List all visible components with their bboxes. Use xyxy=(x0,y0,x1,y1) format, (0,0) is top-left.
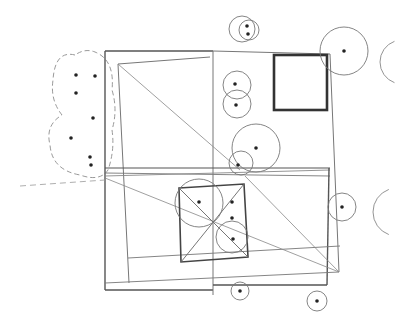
tree-dot xyxy=(340,205,344,209)
partial-arc xyxy=(373,189,389,234)
partial-tree-arcs xyxy=(373,41,394,234)
tree-dot xyxy=(197,200,201,204)
tree-dot xyxy=(233,82,237,86)
tree-dot xyxy=(93,74,97,78)
plan-line xyxy=(330,54,339,272)
tree-dot xyxy=(246,32,250,36)
tree-dot xyxy=(234,103,238,107)
plan-line xyxy=(128,246,340,258)
tree-dot xyxy=(69,136,73,140)
tree-dot xyxy=(91,116,95,120)
tree-dot xyxy=(342,49,346,53)
bold-rect xyxy=(274,55,327,110)
tree-dot xyxy=(315,299,319,303)
tree-dot xyxy=(89,163,93,167)
plan-line xyxy=(118,64,240,170)
tree-trunk-dots xyxy=(69,24,346,303)
partial-arc xyxy=(380,41,394,82)
tree-circle xyxy=(223,71,251,99)
plan-line xyxy=(20,180,105,186)
tree-dot xyxy=(238,289,242,293)
plan-line xyxy=(118,57,210,64)
tree-dot xyxy=(245,24,249,28)
tree-dot xyxy=(74,73,78,77)
site-plan-canvas xyxy=(0,0,409,332)
site-plan-drawing xyxy=(0,0,409,332)
tree-dot xyxy=(88,155,92,159)
plan-lines xyxy=(20,51,340,295)
tree-dot xyxy=(74,91,78,95)
tree-circle xyxy=(229,151,253,175)
plan-line xyxy=(213,51,330,54)
tree-dot xyxy=(231,237,235,241)
tree-circle xyxy=(216,221,248,253)
tree-circle xyxy=(239,20,259,40)
plan-line xyxy=(105,272,339,283)
tree-dot xyxy=(230,216,234,220)
bold-building-rect xyxy=(274,55,327,110)
tree-dot xyxy=(254,146,258,150)
tree-dot xyxy=(236,163,240,167)
tree-dot xyxy=(230,200,234,204)
plan-line xyxy=(245,176,339,272)
